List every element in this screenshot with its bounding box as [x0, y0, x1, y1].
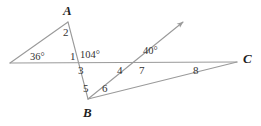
angle-number-5: 5: [83, 83, 89, 94]
angle-number-6: 6: [102, 83, 108, 94]
angle-number-3: 3: [78, 65, 84, 76]
point-label-b: B: [83, 106, 92, 119]
point-label-c: C: [243, 52, 252, 65]
angle-measure-36: 36°: [30, 52, 45, 63]
angle-number-8: 8: [193, 65, 199, 76]
diagram-canvas: [0, 0, 261, 126]
angle-number-4: 4: [117, 65, 123, 76]
geometry-figure: A B C 36° 104° 40° 1 2 3 4 5 6 7 8: [0, 0, 261, 126]
angle-measure-40: 40°: [143, 46, 158, 57]
angle-number-7: 7: [139, 65, 145, 76]
angle-measure-104: 104°: [80, 50, 100, 61]
point-label-a: A: [63, 4, 72, 17]
angle-number-1: 1: [70, 51, 76, 62]
angle-number-2: 2: [63, 27, 69, 38]
